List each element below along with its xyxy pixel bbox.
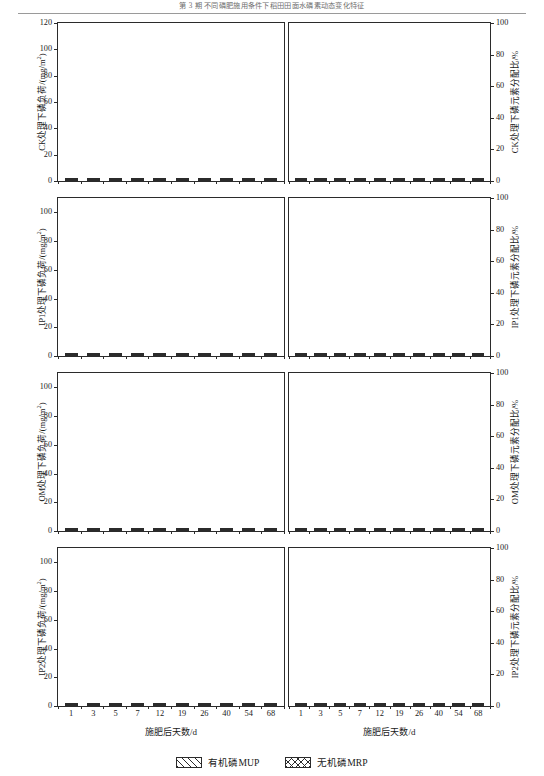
y-axis-tick-label: 20 <box>496 320 504 328</box>
x-axis-tick <box>126 181 127 184</box>
x-axis-tick <box>410 356 411 359</box>
y-axis-tick-label: 40 <box>496 289 504 297</box>
x-axis-tick <box>390 531 391 534</box>
x-axis-tick <box>450 356 451 359</box>
y-axis-tick <box>490 468 494 469</box>
x-axis-tick <box>194 181 195 184</box>
y-axis-tick <box>54 299 58 300</box>
bar-slot <box>193 198 215 356</box>
x-axis-tick <box>289 531 290 534</box>
x-axis-caption-left: 施肥后天数/d <box>57 725 285 738</box>
x-axis-tick <box>284 531 285 534</box>
y-axis-tick-label: 0 <box>48 527 52 535</box>
y-axis-tick <box>490 118 494 119</box>
plot-area: 020406080100 <box>57 372 285 532</box>
bar-slot <box>409 373 429 531</box>
bar-slot <box>238 373 260 531</box>
bar-slot <box>291 198 311 356</box>
bar-slot <box>370 23 390 181</box>
right-axis-title: CK处理下磷元素分配比/% <box>508 22 520 182</box>
bar-slot <box>60 23 82 181</box>
x-axis-tick-label: 40 <box>215 709 237 721</box>
x-axis-tick <box>81 181 82 184</box>
bar-slot <box>390 23 410 181</box>
y-axis-tick-label: 100 <box>496 194 508 202</box>
x-axis-tick-label: 7 <box>350 709 370 721</box>
panel-ip1-percent: 020406080100IP1处理下磷元素分配比/% <box>288 197 491 357</box>
x-axis-tick <box>349 531 350 534</box>
bar-slot <box>171 373 193 531</box>
x-axis-tick <box>430 181 431 184</box>
x-axis-tick-row <box>58 531 284 545</box>
x-axis-tick <box>329 531 330 534</box>
panel-ck-load: 020406080100120CK处理下磷负荷/(mg/m2) <box>57 22 285 182</box>
x-axis-tick <box>171 531 172 534</box>
bar-slot <box>193 373 215 531</box>
x-axis-tick-row <box>58 356 284 370</box>
y-axis-tick <box>54 677 58 678</box>
y-axis-tick <box>54 416 58 417</box>
x-axis-tick <box>430 356 431 359</box>
y-axis-tick-label: 0 <box>48 177 52 185</box>
bar-slot <box>260 548 282 706</box>
y-axis-tick <box>490 230 494 231</box>
y-axis-tick-label: 20 <box>496 670 504 678</box>
bar-slot <box>149 373 171 531</box>
x-axis-tick-label: 26 <box>409 709 429 721</box>
y-axis-tick <box>54 49 58 50</box>
y-axis-tick-label: 100 <box>496 544 508 552</box>
y-axis-tick <box>54 23 58 24</box>
y-axis-tick <box>490 86 494 87</box>
bar-slot <box>127 198 149 356</box>
x-axis-tick <box>349 181 350 184</box>
plot-area: 020406080100120 <box>57 22 285 182</box>
y-axis-tick <box>490 674 494 675</box>
bar-slot <box>291 23 311 181</box>
panel-om-load: 020406080100OM处理下磷负荷/(mg/m2) <box>57 372 285 532</box>
y-axis-tick <box>54 270 58 271</box>
legend-item-mup: 有机磷MUP <box>176 755 259 769</box>
bar-slot <box>215 198 237 356</box>
x-axis-tick-label: 1 <box>291 709 311 721</box>
y-axis-tick-label: 0 <box>496 177 500 185</box>
y-axis-tick <box>54 102 58 103</box>
x-axis-tick-label: 3 <box>311 709 331 721</box>
x-axis-tick <box>450 531 451 534</box>
bar-slot <box>260 373 282 531</box>
x-axis-tick-label: 3 <box>82 709 104 721</box>
y-axis-tick-label: 60 <box>496 607 504 615</box>
bar-slot <box>390 198 410 356</box>
bar-slot <box>330 198 350 356</box>
panel-ip2-percent: 0204060801001357121926405468IP2处理下磷元素分配比… <box>288 547 491 707</box>
bar-slot <box>330 548 350 706</box>
bar-slot <box>215 373 237 531</box>
x-axis-tick <box>239 356 240 359</box>
bar-slot <box>429 23 449 181</box>
y-axis-tick-label: 80 <box>496 576 504 584</box>
y-axis-tick <box>54 591 58 592</box>
x-axis-tick <box>148 356 149 359</box>
x-axis-tick-row <box>289 356 490 370</box>
x-axis-tick <box>58 531 59 534</box>
x-axis-tick <box>470 181 471 184</box>
x-axis-tick <box>148 181 149 184</box>
bar-slot <box>311 23 331 181</box>
panel-row-om: 020406080100OM处理下磷负荷/(mg/m2)020406080100… <box>0 372 544 532</box>
bar-slot <box>60 373 82 531</box>
y-axis-tick <box>490 55 494 56</box>
y-axis-tick <box>490 198 494 199</box>
x-axis-tick <box>329 181 330 184</box>
x-axis-tick <box>470 356 471 359</box>
bar-slot <box>330 23 350 181</box>
y-axis-tick <box>54 76 58 77</box>
plot-area: 020406080100 <box>288 197 491 357</box>
x-axis-tick <box>369 356 370 359</box>
x-axis-tick-label: 12 <box>370 709 390 721</box>
mrp-crosshatch-swatch-icon <box>285 757 311 768</box>
bar-slot <box>171 23 193 181</box>
x-axis-tick-label: 7 <box>127 709 149 721</box>
plot-area: 020406080100 <box>57 197 285 357</box>
bar-slot <box>291 548 311 706</box>
x-axis-tick <box>410 181 411 184</box>
x-axis-tick <box>284 706 285 709</box>
